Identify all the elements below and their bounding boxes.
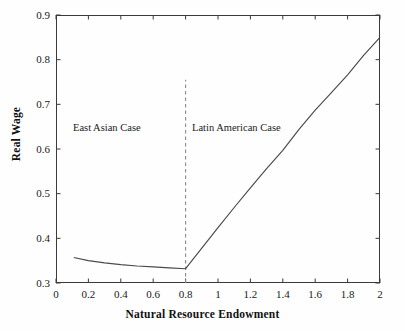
x-tick-label: 0.8 bbox=[171, 289, 201, 300]
x-tick-label: 0.2 bbox=[73, 289, 103, 300]
y-tick-label: 0.4 bbox=[16, 233, 50, 244]
annotation-east-asian-case: East Asian Case bbox=[73, 122, 141, 133]
x-axis-title: Natural Resource Endowment bbox=[0, 308, 405, 320]
x-tick-label: 0 bbox=[41, 289, 71, 300]
chart-figure: Real Wage Natural Resource Endowment Eas… bbox=[0, 0, 405, 331]
y-tick-label: 0.9 bbox=[16, 10, 50, 21]
plot-area bbox=[56, 15, 380, 283]
annotation-latin-american-case: Latin American Case bbox=[192, 122, 281, 133]
x-tick-label: 1.6 bbox=[300, 289, 330, 300]
y-tick-label: 0.3 bbox=[16, 278, 50, 289]
x-tick-label: 1.2 bbox=[235, 289, 265, 300]
x-tick-label: 0.4 bbox=[106, 289, 136, 300]
x-tick-label: 2 bbox=[365, 289, 395, 300]
y-tick-label: 0.7 bbox=[16, 99, 50, 110]
y-tick-label: 0.8 bbox=[16, 54, 50, 65]
x-tick-label: 1.4 bbox=[268, 289, 298, 300]
x-tick-label: 1 bbox=[203, 289, 233, 300]
x-tick-label: 1.8 bbox=[333, 289, 363, 300]
x-tick-label: 0.6 bbox=[138, 289, 168, 300]
y-tick-label: 0.6 bbox=[16, 144, 50, 155]
y-tick-label: 0.5 bbox=[16, 188, 50, 199]
